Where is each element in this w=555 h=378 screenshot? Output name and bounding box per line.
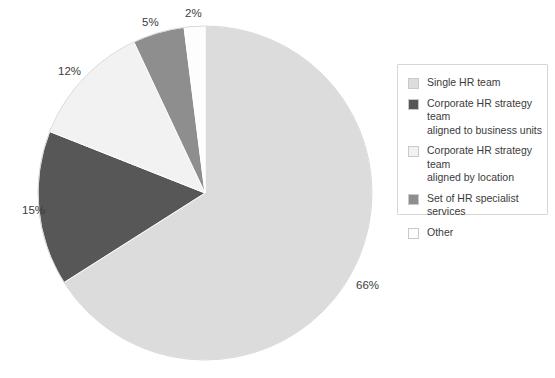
pie-slice-value-label: 2% [185, 7, 202, 19]
pie-slice-value-label: 66% [356, 279, 379, 291]
legend-item[interactable]: Single HR team [408, 76, 542, 90]
pie-slice-group [38, 26, 372, 360]
pie-slice-value-label: 5% [142, 16, 159, 28]
legend-item[interactable]: Set of HR specialist services [408, 192, 542, 219]
legend-item-label: Single HR team [427, 76, 501, 90]
legend-item-label: Other [427, 226, 453, 240]
legend-item[interactable]: Corporate HR strategy team aligned by lo… [408, 144, 542, 185]
legend-item[interactable]: Other [408, 226, 542, 240]
legend-item-label: Corporate HR strategy team aligned by lo… [427, 144, 542, 185]
chart-legend: Single HR teamCorporate HR strategy team… [397, 64, 548, 215]
legend-color-swatch [408, 78, 419, 89]
legend-item-label: Corporate HR strategy team aligned to bu… [427, 97, 542, 138]
legend-item-label: Set of HR specialist services [427, 192, 542, 219]
pie-slice-value-label: 12% [58, 65, 81, 77]
legend-color-swatch [408, 228, 419, 239]
pie-chart-figure: 66%15%12%5%2% Single HR teamCorporate HR… [0, 0, 555, 378]
legend-color-swatch [408, 194, 419, 205]
legend-item-list: Single HR teamCorporate HR strategy team… [408, 76, 542, 239]
pie-slice-value-label: 15% [22, 204, 45, 216]
legend-color-swatch [408, 146, 419, 157]
legend-item[interactable]: Corporate HR strategy team aligned to bu… [408, 97, 542, 138]
legend-color-swatch [408, 99, 419, 110]
